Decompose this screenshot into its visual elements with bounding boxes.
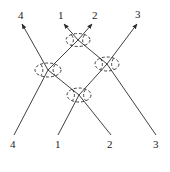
world-line-1	[48, 24, 79, 135]
bottom-label-1: 1	[55, 138, 61, 150]
vertex-inner-arc	[112, 58, 114, 69]
vertex-inner-arc	[71, 35, 73, 45]
scattering-diagram: 4 1 2 3 4 1 2 3	[0, 0, 170, 172]
top-label-2: 2	[92, 9, 98, 21]
bottom-label-3: 3	[153, 138, 159, 150]
vertex-inner-arc	[84, 89, 86, 100]
world-line-3	[107, 24, 156, 135]
bottom-label-2: 2	[107, 138, 113, 150]
world-lines	[14, 24, 156, 135]
world-line-4	[14, 24, 48, 135]
top-label-4: 4	[18, 9, 24, 21]
labels: 4 1 2 3 4 1 2 3	[10, 8, 159, 150]
vertex-inner-arc	[41, 64, 43, 75]
top-label-1: 1	[58, 9, 64, 21]
bottom-label-4: 4	[10, 138, 16, 150]
diagram-svg: 4 1 2 3 4 1 2 3	[0, 0, 170, 172]
vertices	[35, 34, 119, 103]
top-label-3: 3	[135, 8, 141, 20]
